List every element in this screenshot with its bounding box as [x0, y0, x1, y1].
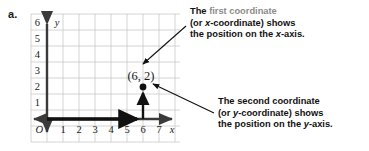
y-tick-6: 6	[35, 17, 40, 28]
leader-line-x	[143, 26, 186, 64]
coordinate-plane-figure: a.	[0, 0, 369, 151]
x-axis-label: x	[169, 124, 175, 135]
x-tick-4: 4	[108, 124, 114, 135]
x-tick-3: 3	[92, 124, 97, 135]
x-callout-line-1: The first coordinate	[190, 6, 305, 18]
x-callout-line-2: (or x-coordinate) shows	[190, 18, 305, 30]
y-tick-3: 3	[35, 65, 40, 76]
x-callout-line-3: the position on the x-axis.	[190, 29, 305, 41]
y-tick-1: 1	[35, 97, 40, 108]
x-tick-2: 2	[76, 124, 81, 135]
y-tick-4: 4	[35, 49, 41, 60]
x-callout-lead: The	[190, 6, 209, 16]
y-coordinate-callout: The second coordinate (or y-coordinate) …	[218, 96, 333, 131]
origin-label: O	[35, 124, 43, 135]
y-tick-5: 5	[35, 33, 40, 44]
y-callout-line-2: (or y-coordinate) shows	[218, 108, 333, 120]
y-callout-accent: second coordinate	[237, 96, 320, 106]
x-coordinate-callout: The first coordinate (or x-coordinate) s…	[190, 6, 305, 41]
point-coordinate-label: (6, 2)	[127, 69, 154, 83]
grid-lines	[31, 14, 180, 142]
y-callout-line-1: The second coordinate	[218, 96, 333, 108]
leader-line-y	[153, 84, 214, 113]
y-axis-label: y	[54, 17, 60, 28]
y-tick-2: 2	[35, 81, 40, 92]
x-tick-7: 7	[156, 124, 161, 135]
x-tick-5: 5	[124, 124, 129, 135]
y-callout-lead: The	[218, 96, 237, 106]
plotted-point	[140, 84, 147, 91]
y-callout-line-3: the position on the y-axis.	[218, 119, 333, 131]
x-tick-1: 1	[60, 124, 65, 135]
x-tick-6: 6	[140, 124, 145, 135]
x-callout-accent: first coordinate	[209, 6, 277, 16]
